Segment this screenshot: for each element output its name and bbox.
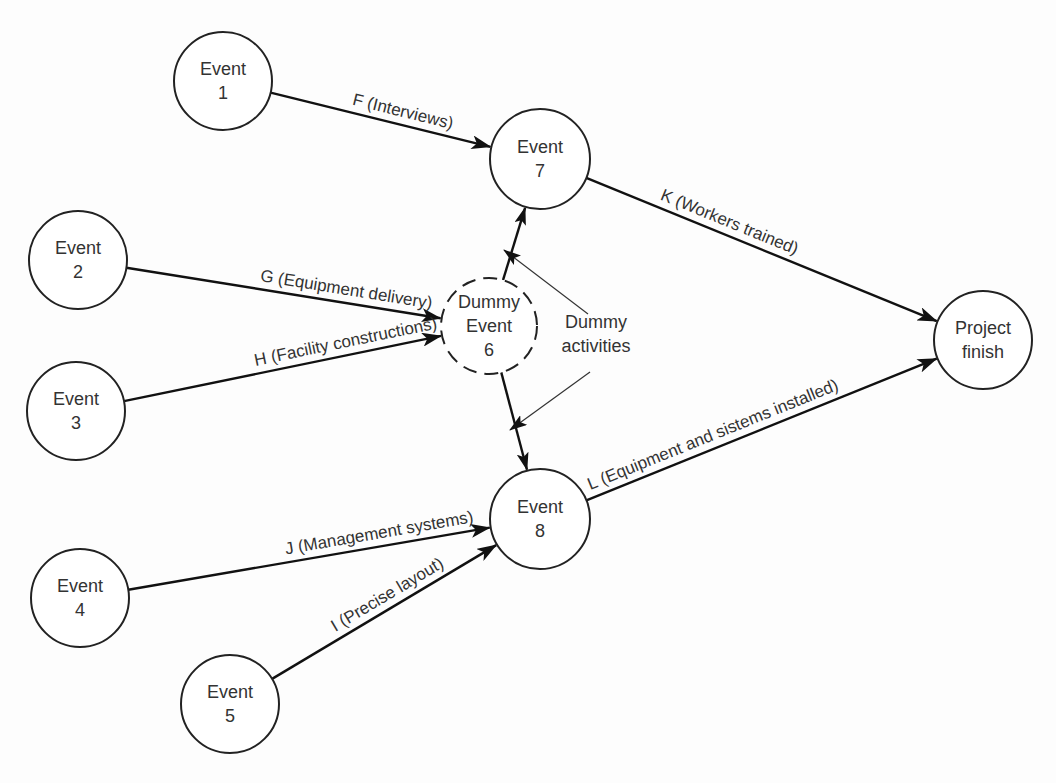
edge-D1 [503,208,525,280]
event-circle [490,469,590,569]
event-circle [181,655,279,753]
node-label: finish [962,342,1004,362]
activity-label: L (Equipment and sistems installed) [585,375,841,493]
event-circle [934,291,1032,389]
node-e8: Event8 [490,469,590,569]
node-e7: Event7 [490,109,590,209]
node-label: Event [517,137,563,157]
node-e3: Event3 [27,362,125,460]
edge-I: I (Precise layout) [272,545,496,679]
node-label: Project [955,318,1011,338]
node-label: 5 [225,706,235,726]
annotation-layer: Dummyactivities [561,312,630,356]
edge-L: L (Equipment and sistems installed) [585,359,937,501]
event-circle [31,549,129,647]
activity-label: K (Workers trained) [658,185,801,258]
node-label: 4 [75,600,85,620]
node-label: Dummy [458,292,520,312]
activity-label: I (Precise layout) [328,554,447,636]
node-label: Event [55,238,101,258]
edge-G: G (Equipment delivery) [126,266,440,318]
activity-arrow [586,359,936,501]
node-label: 7 [535,161,545,181]
node-e6: DummyEvent6 [441,278,537,374]
dummy-activity-arrow [503,208,525,280]
node-label: Event [57,576,103,596]
activity-arrow [272,545,496,679]
edge-H: H (Facility constructions) [124,314,441,401]
dummy-activities-label: activities [561,336,630,356]
node-label: 1 [218,83,228,103]
diagram-canvas: F (Interviews)G (Equipment delivery)H (F… [0,0,1056,783]
node-e1: Event1 [174,32,272,130]
node-e5: Event5 [181,655,279,753]
event-circle [29,211,127,309]
node-label: Event [53,389,99,409]
activity-arrow [586,178,936,321]
edge-J: J (Management systems) [128,507,489,589]
node-label: 3 [71,413,81,433]
edge-K: K (Workers trained) [586,178,936,321]
activity-label: J (Management systems) [283,507,474,558]
annotation-pointer-arrow [510,372,590,430]
node-finish: Projectfinish [934,291,1032,389]
node-e2: Event2 [29,211,127,309]
dummy-activities-label: Dummy [565,312,627,332]
node-e4: Event4 [31,549,129,647]
node-label: Event [207,682,253,702]
node-label: 8 [535,521,545,541]
nodes-layer: Event1Event2Event3Event4Event5DummyEvent… [27,32,1032,753]
activity-label: G (Equipment delivery) [259,266,434,312]
node-label: Event [517,497,563,517]
node-label: Event [200,59,246,79]
event-circle [490,109,590,209]
node-label: Event [466,316,512,336]
edge-F: F (Interviews) [271,90,491,147]
node-label: 2 [73,262,83,282]
event-circle [27,362,125,460]
event-circle [174,32,272,130]
node-label: 6 [484,340,494,360]
network-diagram: F (Interviews)G (Equipment delivery)H (F… [0,0,1056,783]
